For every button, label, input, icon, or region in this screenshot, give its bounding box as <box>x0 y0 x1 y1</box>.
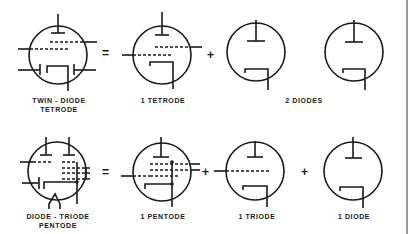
plus-operator-row1: + <box>207 49 214 61</box>
tube-symbols <box>0 0 409 234</box>
diode-symbol-a <box>227 20 285 90</box>
label-line-2: PENTODE <box>20 221 96 230</box>
diode-symbol-b <box>325 20 383 90</box>
label-pentode: 1 PENTODE <box>128 212 198 221</box>
plus-operator-row2-a: + <box>202 166 209 178</box>
diagram-canvas: = + = + + TWIN - DIODE TETRODE 1 TETRODE… <box>0 0 409 234</box>
right-border-line <box>406 0 408 234</box>
label-diodes: 2 DIODES <box>269 96 339 105</box>
tetrode-symbol <box>122 12 202 89</box>
twin-diode-tetrode-symbol <box>18 14 97 91</box>
equals-operator-row2: = <box>102 166 109 178</box>
plus-operator-row2-b: + <box>301 166 308 178</box>
label-diode-triode-pentode: DIODE - TRIODE PENTODE <box>20 212 96 230</box>
label-twin-diode-tetrode: TWIN - DIODE TETRODE <box>24 96 94 114</box>
diode-triode-pentode-symbol <box>20 137 92 209</box>
label-diode: 1 DIODE <box>319 212 389 221</box>
label-triode: 1 TRIODE <box>222 212 292 221</box>
label-line-1: TWIN - DIODE <box>24 96 94 105</box>
pentode-symbol <box>121 137 200 207</box>
equals-operator-row1: = <box>102 47 109 59</box>
label-tetrode: 1 TETRODE <box>128 96 198 105</box>
label-line-1: DIODE - TRIODE <box>20 212 96 221</box>
triode-symbol <box>214 141 284 207</box>
diode-symbol-c <box>324 137 382 208</box>
label-line-2: TETRODE <box>24 105 94 114</box>
